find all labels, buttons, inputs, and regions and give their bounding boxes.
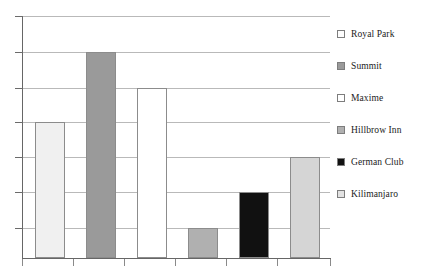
legend-item-hillbrow-inn[interactable]: Hillbrow Inn (337, 124, 402, 136)
bar-summit (86, 52, 116, 258)
legend-item-maxime[interactable]: Maxime (337, 92, 383, 104)
bar-chart: Royal ParkSummitMaximeHillbrow InnGerman… (0, 0, 421, 276)
bar-hillbrow-inn (188, 228, 218, 258)
legend-item-label: German Club (351, 157, 404, 168)
legend-swatch-icon (337, 94, 345, 102)
bar-maxime (137, 88, 167, 258)
legend-item-german-club[interactable]: German Club (337, 156, 404, 168)
bar-kilimanjaro (290, 157, 320, 258)
legend-item-label: Hillbrow Inn (351, 125, 402, 136)
legend-item-label: Maxime (351, 93, 383, 104)
legend-swatch-icon (337, 190, 345, 198)
bar-german-club (239, 192, 269, 258)
legend-swatch-icon (337, 126, 345, 134)
legend-item-label: Kilimanjaro (351, 189, 398, 200)
bars-group (0, 0, 421, 276)
legend-item-kilimanjaro[interactable]: Kilimanjaro (337, 188, 398, 200)
legend-item-royal-park[interactable]: Royal Park (337, 28, 394, 40)
legend-item-summit[interactable]: Summit (337, 60, 382, 72)
legend-swatch-icon (337, 158, 345, 166)
legend-swatch-icon (337, 62, 345, 70)
legend-item-label: Royal Park (351, 29, 394, 40)
legend-item-label: Summit (351, 61, 382, 72)
legend-swatch-icon (337, 30, 345, 38)
bar-royal-park (35, 122, 65, 258)
